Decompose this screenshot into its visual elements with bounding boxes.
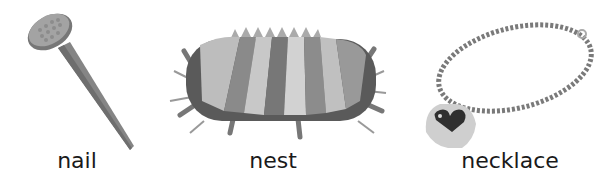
nail-card: nail [0, 0, 160, 191]
nest-label: nest [249, 148, 297, 173]
necklace-label: necklace [461, 148, 559, 173]
necklace-card: necklace [410, 0, 610, 191]
nail-icon [0, 0, 160, 160]
necklace-icon [410, 0, 610, 160]
nest-card: nest [160, 0, 400, 191]
nail-label: nail [57, 148, 97, 173]
nest-icon [160, 15, 400, 155]
